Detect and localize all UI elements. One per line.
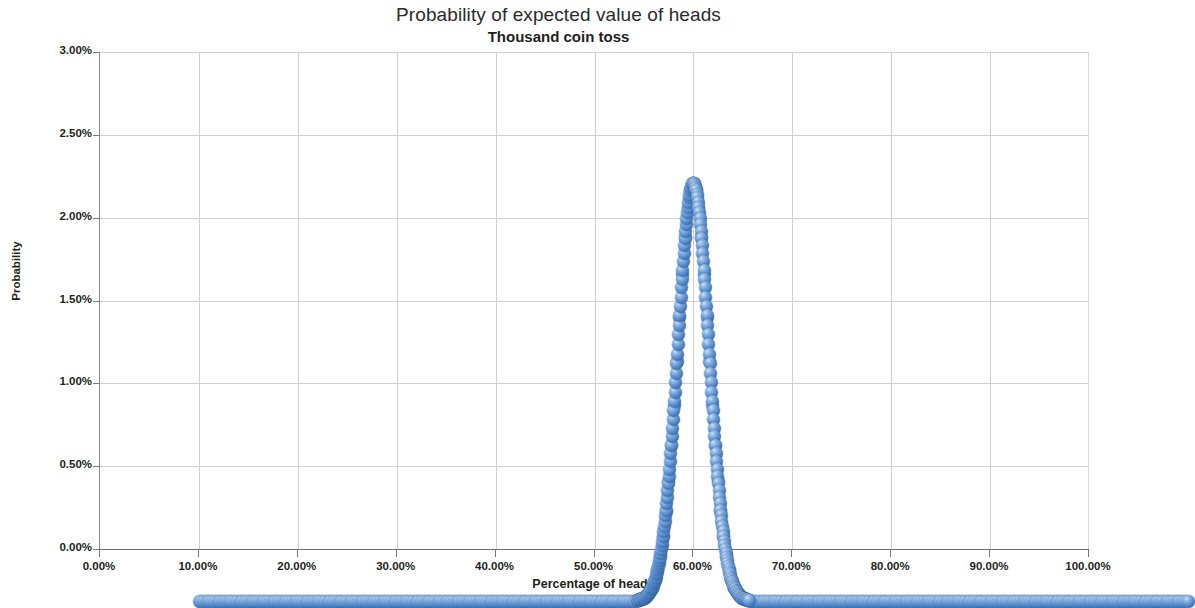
plot-area — [99, 52, 1089, 550]
x-axis-tick-label: 100.00% — [1033, 560, 1143, 572]
data-point — [743, 594, 756, 607]
x-axis-tick-mark — [791, 550, 792, 557]
gridline-vertical — [496, 52, 497, 549]
chart-subtitle: Thousand coin toss — [0, 28, 1117, 45]
x-axis-tick-mark — [594, 550, 595, 557]
y-axis-tick-label: 0.00% — [0, 541, 92, 553]
y-axis-tick-label: 2.00% — [0, 210, 92, 222]
y-axis-tick-label: 1.00% — [0, 375, 92, 387]
x-axis-tick-mark — [1088, 550, 1089, 557]
x-axis-title: Percentage of heads — [99, 577, 1088, 591]
x-axis-tick-label: 90.00% — [934, 560, 1044, 572]
x-axis-tick-label: 80.00% — [835, 560, 945, 572]
gridline-vertical — [990, 52, 991, 549]
gridline-vertical — [397, 52, 398, 549]
gridline-vertical — [199, 52, 200, 549]
x-axis-tick-mark — [692, 550, 693, 557]
chart-title: Probability of expected value of heads — [0, 4, 1117, 26]
x-axis-tick-mark — [989, 550, 990, 557]
x-axis-tick-mark — [495, 550, 496, 557]
y-axis-tick-label: 1.50% — [0, 293, 92, 305]
x-axis-tick-mark — [396, 550, 397, 557]
x-axis-tick-label: 70.00% — [736, 560, 846, 572]
x-axis-tick-mark — [99, 550, 100, 557]
gridline-vertical — [891, 52, 892, 549]
x-axis-tick-mark — [297, 550, 298, 557]
x-axis-tick-mark — [198, 550, 199, 557]
y-axis-tick-label: 0.50% — [0, 458, 92, 470]
gridline-vertical — [792, 52, 793, 549]
gridline-vertical — [595, 52, 596, 549]
gridline-vertical — [693, 52, 694, 549]
y-axis-tick-label: 2.50% — [0, 127, 92, 139]
data-point — [1182, 595, 1195, 608]
x-axis-tick-label: 10.00% — [143, 560, 253, 572]
y-axis-tick-label: 3.00% — [0, 44, 92, 56]
gridline-vertical — [298, 52, 299, 549]
x-axis-tick-mark — [890, 550, 891, 557]
y-axis-title: Probability — [10, 221, 22, 321]
x-axis-tick-label: 50.00% — [539, 560, 649, 572]
x-axis-tick-label: 30.00% — [341, 560, 451, 572]
x-axis-tick-label: 40.00% — [440, 560, 550, 572]
x-axis-tick-label: 20.00% — [242, 560, 352, 572]
x-axis-tick-label: 0.00% — [44, 560, 154, 572]
